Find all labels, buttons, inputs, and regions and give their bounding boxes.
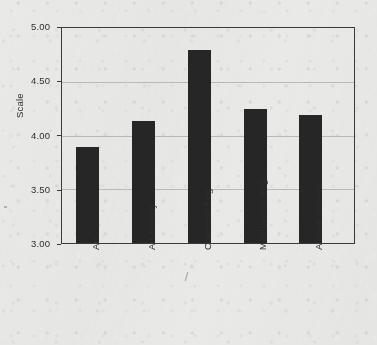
y-tick-label-450: 4.50: [31, 75, 50, 86]
bar-art: [76, 147, 99, 243]
y-axis-title: Scale: [14, 93, 25, 118]
y-tick-mark-300: [57, 244, 61, 245]
x-tick-label-chemical-eng: Chemical Eng.: [202, 186, 213, 250]
x-tick-label-art: Art: [90, 237, 101, 250]
y-tick-label-500: 5.00: [31, 21, 50, 32]
x-tick-label-art-history: Art History: [146, 203, 157, 250]
stray-pen-mark: [185, 272, 188, 281]
scan-speck: [4, 206, 7, 208]
x-tick-label-mechanical-eng: Mechanical Eng.: [257, 177, 268, 250]
x-tick-label-animal-science: Animal Science: [313, 182, 324, 250]
bar-chart-figure: Scale 5.00 4.50 4.00 3.50 3.00 Art Art H…: [0, 0, 377, 345]
y-tick-label-350: 3.50: [31, 184, 50, 195]
y-tick-label-400: 4.00: [31, 130, 50, 141]
y-tick-label-300: 3.00: [31, 238, 50, 249]
